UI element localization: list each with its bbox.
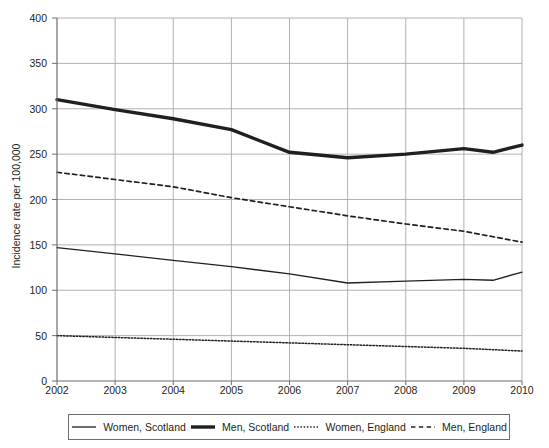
y-axis-tick-label: 350 [0,58,47,68]
legend-label: Men, Scotland [222,421,289,433]
y-axis-tick-labels: 050100150200250300350400 [0,0,57,448]
y-axis-tick-label: 250 [0,149,47,159]
legend-label: Women, Scotland [103,421,186,433]
y-axis-title: Incidence rate per 100,000 [10,106,22,306]
legend-item[interactable]: Men, Scotland [188,421,291,433]
legend-swatch-solid-thick-icon [190,421,216,433]
x-axis-tick-label: 2007 [318,384,378,396]
incidence-rate-line-chart: 050100150200250300350400 Incidence rate … [0,0,549,448]
y-axis-tick-label: 50 [0,331,47,341]
x-axis-tick-label: 2009 [434,384,494,396]
x-axis-tick-labels: 200220032004200520062007200820092010 [0,384,549,402]
x-axis-tick-label: 2004 [143,384,203,396]
plot-svg [57,18,522,381]
legend-item[interactable]: Men, England [408,421,509,433]
legend-item[interactable]: Women, England [291,421,407,433]
legend-label: Men, England [442,421,507,433]
x-axis-tick-label: 2002 [27,384,87,396]
x-axis-tick-label: 2008 [376,384,436,396]
y-axis-tick-label: 200 [0,195,47,205]
legend-swatch-dotted-icon [293,421,319,433]
chart-legend: Women, ScotlandMen, ScotlandWomen, Engla… [68,414,510,440]
legend-label: Women, England [325,421,405,433]
y-axis-tick-label: 100 [0,285,47,295]
x-axis-tick-label: 2003 [85,384,145,396]
legend-item[interactable]: Women, Scotland [69,421,188,433]
x-axis-tick-label: 2005 [201,384,261,396]
y-axis-tick-label: 150 [0,240,47,250]
plot-area [57,18,522,381]
x-axis-tick-label: 2010 [492,384,549,396]
axis-ticks [52,18,522,385]
y-axis-tick-label: 300 [0,104,47,114]
x-axis-tick-label: 2006 [260,384,320,396]
legend-swatch-dashed-icon [410,421,436,433]
legend-swatch-solid-thin-icon [71,421,97,433]
y-axis-tick-label: 400 [0,13,47,23]
